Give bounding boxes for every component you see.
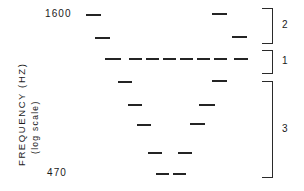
- data-mark-group-1: [146, 58, 159, 60]
- data-mark-group-3: [137, 124, 151, 126]
- y-tick-label-bottom: 470: [47, 167, 67, 178]
- data-mark-group-1: [234, 58, 248, 60]
- data-mark-group-3: [118, 81, 132, 83]
- data-mark-group-2: [232, 36, 247, 38]
- bracket-1: [262, 50, 273, 74]
- bracket-2: [262, 8, 273, 44]
- figure-canvas: FREQUENCY (HZ) (log scale) 1600 470 213: [0, 0, 304, 191]
- data-mark-group-3: [178, 152, 192, 154]
- data-mark-group-3: [212, 80, 227, 82]
- data-mark-group-1: [214, 58, 227, 60]
- data-mark-group-2: [212, 13, 227, 15]
- data-mark-group-1: [180, 58, 193, 60]
- bracket-label-3: 3: [282, 123, 288, 134]
- data-mark-group-1: [129, 58, 142, 60]
- data-mark-group-1: [163, 58, 176, 60]
- data-mark-group-1: [105, 58, 121, 60]
- y-axis-title: FREQUENCY (HZ): [16, 62, 27, 166]
- bracket-label-2: 2: [282, 19, 288, 30]
- data-mark-group-3: [190, 123, 205, 125]
- data-mark-group-3: [128, 104, 142, 106]
- data-mark-group-3: [148, 152, 162, 154]
- data-mark-group-2: [86, 14, 101, 16]
- data-mark-group-3: [173, 173, 186, 175]
- bracket-label-1: 1: [282, 55, 288, 66]
- data-mark-group-3: [156, 173, 169, 175]
- y-axis-subtitle: (log scale): [30, 100, 40, 154]
- data-mark-group-1: [197, 58, 210, 60]
- data-mark-group-2: [95, 37, 110, 39]
- bracket-3: [262, 81, 273, 178]
- y-tick-label-top: 1600: [45, 8, 72, 19]
- data-mark-group-3: [199, 104, 215, 106]
